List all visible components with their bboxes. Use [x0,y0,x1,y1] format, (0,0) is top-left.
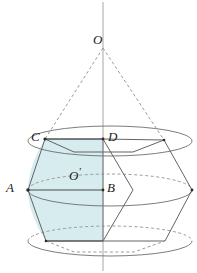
vertex-dot-topright [163,139,166,142]
vertex-dot-D [102,138,105,141]
label-point-B: B [107,181,115,194]
label-point-D: D [108,130,117,143]
vertex-dot-right [191,189,194,192]
vertex-dot-C [43,137,46,140]
geometry-figure: O C D A B O [0,0,197,273]
cone-slant-left [45,48,103,139]
label-point-C: C [31,130,40,143]
edge-topright-to-right [164,140,192,190]
vertex-dot-A [26,188,30,192]
edge-right-to-bottomright [165,190,192,241]
edge-frontmid-to-frontbottom [103,190,133,241]
bottom-hexagon-face [46,241,165,252]
vertex-dot-bottomleft [45,240,48,243]
label-center-O-prime: O [69,166,81,182]
vertex-dot-B [102,189,105,192]
prism-right-silhouette [164,140,192,241]
label-point-A: A [6,181,14,194]
bottom-hexagon-near-edges [46,241,165,252]
label-apex-O: O [93,33,102,46]
